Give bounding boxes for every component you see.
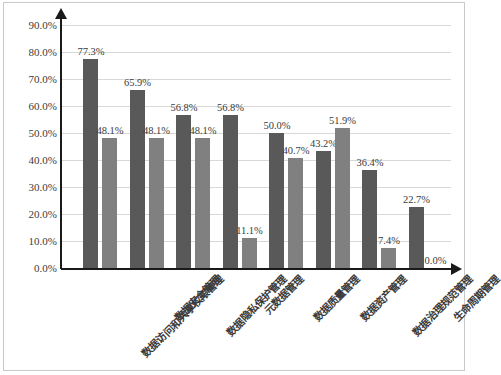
gridline — [61, 25, 451, 26]
bar-value-label: 50.0% — [257, 120, 297, 131]
plot-area: 77.3%48.1%65.9%48.1%56.8%48.1%56.8%11.1%… — [61, 25, 451, 268]
bar-series-2[interactable] — [288, 158, 303, 268]
y-axis-tick-label: 10.0% — [7, 236, 57, 247]
x-axis-label: 数据安全管理 — [171, 273, 222, 324]
chart-frame: 90.0%80.0%70.0%60.0%50.0%40.0%30.0%20.0%… — [3, 2, 465, 371]
bar-value-label: 56.8% — [211, 102, 251, 113]
bar-value-label: 65.9% — [118, 77, 158, 88]
y-axis-tick-label: 20.0% — [7, 209, 57, 220]
y-axis-tick-label: 50.0% — [7, 128, 57, 139]
bar-value-label: 36.4% — [350, 157, 390, 168]
bar-series-2[interactable] — [335, 128, 350, 268]
y-axis-tick-label: 80.0% — [7, 47, 57, 58]
bar-value-label: 48.1% — [137, 125, 177, 136]
gridline — [61, 214, 451, 215]
y-axis-tick-label: 70.0% — [7, 74, 57, 85]
bar-value-label: 0.0% — [416, 255, 456, 266]
bar-series-1[interactable] — [176, 115, 191, 268]
y-axis-tick-label: 40.0% — [7, 155, 57, 166]
y-axis-tick-label: 90.0% — [7, 20, 57, 31]
bar-value-label: 22.7% — [397, 194, 437, 205]
gridline — [61, 160, 451, 161]
x-axis-line — [61, 268, 453, 270]
bar-series-1[interactable] — [83, 59, 98, 268]
bar-series-1[interactable] — [130, 90, 145, 268]
bar-series-1[interactable] — [362, 170, 377, 268]
bar-value-label: 77.3% — [71, 46, 111, 57]
bar-series-2[interactable] — [149, 138, 164, 268]
gridline — [61, 52, 451, 53]
x-axis-category-labels: 数据访问和共享权限管理数据安全管理数据隐私保护管理元数据管理数据质量管理数据资产… — [4, 271, 473, 375]
y-axis-tick-label: 30.0% — [7, 182, 57, 193]
bar-series-2[interactable] — [381, 248, 396, 268]
bar-value-label: 48.1% — [90, 125, 130, 136]
bar-series-2[interactable] — [195, 138, 210, 268]
bar-value-label: 51.9% — [323, 115, 363, 126]
bar-value-label: 48.1% — [183, 125, 223, 136]
gridline — [61, 187, 451, 188]
bar-value-label: 56.8% — [164, 102, 204, 113]
x-axis-label: 数据资产管理 — [357, 273, 408, 324]
bar-value-label: 7.4% — [369, 235, 409, 246]
bar-series-2[interactable] — [102, 138, 117, 268]
bar-series-2[interactable] — [242, 238, 257, 268]
bar-value-label: 11.1% — [230, 225, 270, 236]
x-axis-label: 数据质量管理 — [311, 273, 362, 324]
bar-series-1[interactable] — [316, 151, 331, 268]
bar-series-1[interactable] — [223, 115, 238, 268]
y-axis-line — [60, 17, 62, 269]
y-axis-arrow-icon — [55, 8, 67, 19]
gridline — [61, 106, 451, 107]
y-axis-tick-label: 60.0% — [7, 101, 57, 112]
